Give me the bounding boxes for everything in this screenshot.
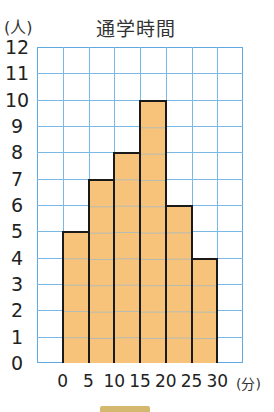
x-tick-label: 20 [153,371,179,391]
histogram-bar [113,152,141,363]
x-tick-label: 25 [179,371,205,391]
histogram-bar [191,258,219,363]
x-tick-label: 30 [204,371,230,391]
y-axis-unit: (人) [4,14,32,38]
y-tick-label: 8 [2,142,32,162]
y-tick-label: 4 [2,248,32,268]
x-tick-label: 10 [101,371,127,391]
histogram-bar [88,179,116,363]
y-tick-label: 0 [2,353,32,373]
histogram-bar [62,231,90,363]
y-tick-label: 2 [2,300,32,320]
y-tick-label: 7 [2,169,32,189]
y-tick-label: 11 [2,63,32,83]
y-tick-label: 5 [2,221,32,241]
histogram-bar [165,205,193,363]
cropped-fragment [100,406,150,412]
histogram-bar [139,100,167,363]
x-tick-label: 0 [50,371,76,391]
y-tick-label: 1 [2,327,32,347]
y-tick-label: 6 [2,195,32,215]
x-tick-label: 5 [76,371,102,391]
plot-area [37,47,243,363]
chart-title: 通学時間 [96,14,176,41]
y-tick-label: 10 [2,90,32,110]
x-tick-label: 15 [127,371,153,391]
y-tick-label: 3 [2,274,32,294]
grid-hline [37,73,243,74]
y-tick-label: 12 [2,37,32,57]
y-tick-label: 9 [2,116,32,136]
x-axis-unit: (分) [236,373,261,393]
